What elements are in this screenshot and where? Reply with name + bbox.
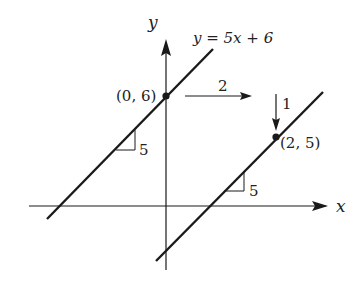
- equation-label: y = 5x + 6: [192, 29, 274, 47]
- line-shifted: [156, 92, 323, 261]
- slope-label-right: 5: [249, 182, 259, 200]
- y-axis: [161, 39, 171, 270]
- drop-arrow: [272, 94, 280, 131]
- drop-label: 1: [282, 95, 292, 113]
- y-axis-label: y: [147, 12, 158, 32]
- point-label-2-5: (2, 5): [280, 134, 320, 152]
- point-0-6: [162, 92, 169, 99]
- x-axis-label: x: [336, 196, 346, 216]
- line-diagram: y x y = 5x + 6 (0, 6) (2, 5) 2 1 5 5: [0, 0, 363, 284]
- run-label: 2: [218, 77, 228, 95]
- line-original: [47, 49, 213, 219]
- point-label-0-6: (0, 6): [116, 87, 156, 105]
- slope-label-left: 5: [139, 141, 149, 159]
- point-2-5: [272, 133, 279, 140]
- x-axis: [29, 201, 328, 211]
